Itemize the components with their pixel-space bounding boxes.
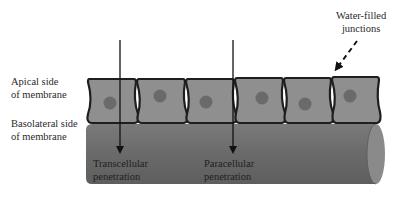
cell-5: [284, 78, 334, 123]
transcellular-line1: Transcellular: [93, 157, 148, 170]
junction-pointer-arrow: [337, 41, 357, 68]
cell-1: [87, 79, 138, 123]
paracellular-label: Paracellular penetration: [204, 157, 254, 183]
junctions-line1: Water-filled: [336, 9, 386, 22]
basolateral-line1: Basolateral side: [11, 117, 78, 130]
paracellular-line1: Paracellular: [204, 157, 254, 170]
nucleus-icon: [256, 92, 269, 105]
apical-side-label: Apical side of membrane: [11, 75, 67, 101]
epithelial-cells: [87, 77, 380, 123]
nucleus-icon: [344, 90, 357, 103]
apical-line2: of membrane: [11, 88, 67, 101]
basolateral-side-label: Basolateral side of membrane: [11, 117, 78, 143]
nucleus-icon: [154, 90, 167, 103]
apical-line1: Apical side: [11, 75, 67, 88]
nucleus-icon: [200, 96, 213, 109]
cell-3: [186, 79, 237, 123]
transcellular-line2: penetration: [93, 170, 148, 183]
nucleus-icon: [299, 98, 312, 111]
cell-6: [332, 77, 381, 123]
nucleus-icon: [104, 97, 117, 110]
water-filled-junctions-label: Water-filled junctions: [336, 9, 386, 35]
junctions-line2: junctions: [336, 22, 386, 35]
cell-4: [235, 78, 286, 123]
cell-2: [137, 79, 188, 123]
basolateral-line2: of membrane: [11, 130, 78, 143]
paracellular-line2: penetration: [204, 170, 254, 183]
transcellular-label: Transcellular penetration: [93, 157, 148, 183]
